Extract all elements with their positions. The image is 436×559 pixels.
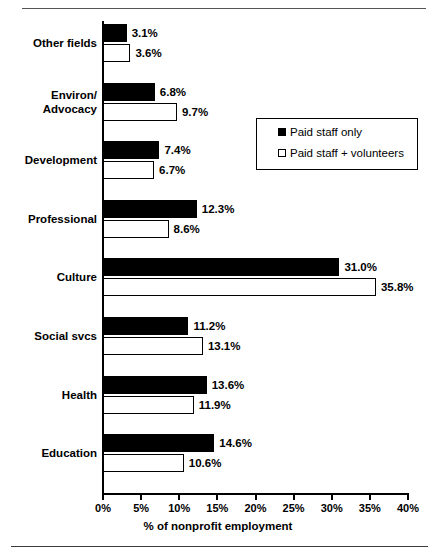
bar-value-label: 12.3% xyxy=(202,200,235,218)
x-axis-tick xyxy=(407,495,409,500)
bar-paid-staff-plus-volunteers xyxy=(103,454,184,472)
bar-paid-staff-plus-volunteers xyxy=(103,337,203,355)
bar-paid-staff-plus-volunteers xyxy=(103,220,169,238)
bar-value-label: 3.6% xyxy=(135,44,161,62)
bar-value-label: 6.8% xyxy=(160,83,186,101)
x-axis-tick-label: 30% xyxy=(321,502,343,514)
bar-paid-staff-only xyxy=(103,24,127,42)
bar-value-label: 3.1% xyxy=(132,24,158,42)
category-label: Health xyxy=(0,388,97,402)
bar-paid-staff-only xyxy=(103,83,155,101)
bar-paid-staff-plus-volunteers xyxy=(103,396,194,414)
x-axis-tick-label: 40% xyxy=(397,502,419,514)
filled-square-icon xyxy=(278,128,286,136)
bar-value-label: 9.7% xyxy=(182,103,208,121)
bar-value-label: 11.2% xyxy=(193,317,225,335)
bar-value-label: 6.7% xyxy=(159,161,185,179)
bar-value-label: 11.9% xyxy=(199,396,231,414)
bar-paid-staff-only xyxy=(103,258,339,276)
category-label-line: Environ/ xyxy=(0,88,97,102)
category-label: Culture xyxy=(0,270,97,284)
x-axis-tick-label: 35% xyxy=(359,502,381,514)
x-axis-tick xyxy=(216,495,218,500)
category-label-line: Social svcs xyxy=(0,329,97,343)
x-axis-tick-label: 10% xyxy=(168,502,190,514)
legend-entry-paid-staff-plus-volunteers: Paid staff + volunteers xyxy=(278,147,404,159)
chart-figure: 0%5%10%15%20%25%30%35%40%3.1%3.6%Other f… xyxy=(0,0,436,559)
bar-value-label: 7.4% xyxy=(164,141,190,159)
category-label: Environ/Advocacy xyxy=(0,88,97,116)
bar-value-label: 8.6% xyxy=(174,220,200,238)
legend-label-paid-staff-only: Paid staff only xyxy=(290,126,362,138)
category-label: Professional xyxy=(0,212,97,226)
bar-paid-staff-plus-volunteers xyxy=(103,103,177,121)
hollow-square-icon xyxy=(278,149,286,157)
x-axis-tick-label: 5% xyxy=(133,502,149,514)
category-label: Education xyxy=(0,446,97,460)
bar-paid-staff-plus-volunteers xyxy=(103,278,376,296)
category-label: Other fields xyxy=(0,36,97,50)
category-label-line: Professional xyxy=(0,212,97,226)
bar-paid-staff-only xyxy=(103,200,197,218)
bar-paid-staff-only xyxy=(103,317,188,335)
bar-paid-staff-only xyxy=(103,434,214,452)
bottom-divider-rule xyxy=(11,546,428,547)
legend-entry-paid-staff-only: Paid staff only xyxy=(278,126,362,138)
x-axis-tick-label: 0% xyxy=(95,502,111,514)
x-axis-tick-label: 25% xyxy=(283,502,305,514)
category-label-line: Culture xyxy=(0,270,97,284)
legend-label-paid-staff-plus-volunteers: Paid staff + volunteers xyxy=(290,147,404,159)
bar-paid-staff-plus-volunteers xyxy=(103,44,130,62)
bar-value-label: 35.8% xyxy=(381,278,414,296)
x-axis-tick-label: 15% xyxy=(206,502,228,514)
chart-legend: Paid staff only Paid staff + volunteers xyxy=(256,118,418,170)
category-label-line: Advocacy xyxy=(0,102,97,116)
bar-paid-staff-plus-volunteers xyxy=(103,161,154,179)
category-label-line: Health xyxy=(0,388,97,402)
x-axis-tick xyxy=(293,495,295,500)
x-axis-tick xyxy=(331,495,333,500)
bar-value-label: 13.6% xyxy=(212,376,245,394)
x-axis-tick xyxy=(178,495,180,500)
x-axis-tick xyxy=(255,495,257,500)
bar-paid-staff-only xyxy=(103,376,207,394)
category-label-line: Other fields xyxy=(0,36,97,50)
bar-value-label: 13.1% xyxy=(208,337,241,355)
x-axis-title: % of nonprofit employment xyxy=(0,520,436,532)
bar-value-label: 31.0% xyxy=(344,258,377,276)
x-axis-tick xyxy=(102,495,104,500)
category-label: Social svcs xyxy=(0,329,97,343)
bar-paid-staff-only xyxy=(103,141,159,159)
x-axis-tick-label: 20% xyxy=(244,502,266,514)
x-axis-tick xyxy=(369,495,371,500)
category-label-line: Development xyxy=(0,153,97,167)
bar-chart-plot-area: 0%5%10%15%20%25%30%35%40%3.1%3.6%Other f… xyxy=(0,0,436,559)
bar-value-label: 10.6% xyxy=(189,454,222,472)
x-axis-tick xyxy=(140,495,142,500)
bar-value-label: 14.6% xyxy=(219,434,252,452)
category-label: Development xyxy=(0,153,97,167)
category-label-line: Education xyxy=(0,446,97,460)
